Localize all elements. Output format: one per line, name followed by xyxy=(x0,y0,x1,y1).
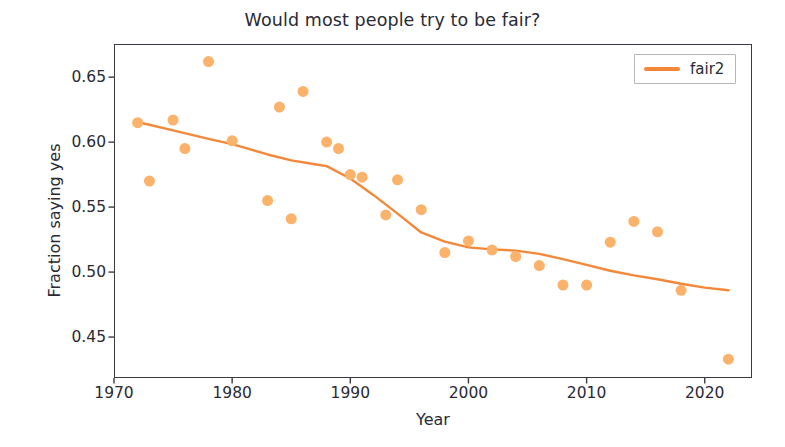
x-tick-label: 2020 xyxy=(665,384,745,402)
chart-legend: fair2 xyxy=(634,54,736,84)
x-tick-label: 2000 xyxy=(428,384,508,402)
y-axis-tick-labels: 0.450.500.550.600.65 xyxy=(40,0,106,447)
y-tick-label: 0.50 xyxy=(46,263,106,281)
x-tick-label: 2010 xyxy=(547,384,627,402)
y-tick-label: 0.60 xyxy=(46,133,106,151)
y-tick-label: 0.65 xyxy=(46,68,106,86)
x-tick-label: 1990 xyxy=(310,384,390,402)
x-axis-label: Year xyxy=(114,410,752,429)
y-tick-label: 0.45 xyxy=(46,328,106,346)
y-tick-label: 0.55 xyxy=(46,198,106,216)
x-tick-label: 1980 xyxy=(192,384,272,402)
plot-area xyxy=(114,44,752,378)
legend-line-swatch xyxy=(644,67,680,70)
x-tick-label: 1970 xyxy=(74,384,154,402)
chart-figure: Would most people try to be fair? Fracti… xyxy=(0,0,785,447)
x-axis-tick-labels: 197019801990200020102020 xyxy=(0,384,785,410)
chart-title: Would most people try to be fair? xyxy=(0,10,785,30)
legend-label-fair2: fair2 xyxy=(690,60,724,78)
